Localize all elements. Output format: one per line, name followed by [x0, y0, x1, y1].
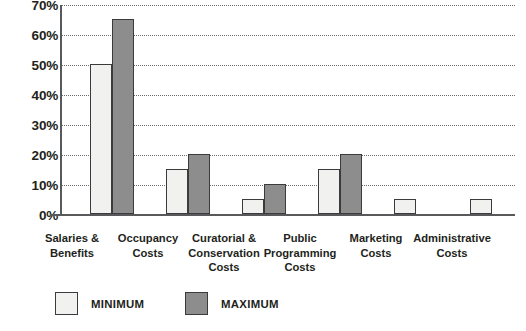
- maximum-swatch-icon: [185, 292, 208, 315]
- bar-minimum-curatorial-conservation-costs[interactable]: [242, 199, 264, 214]
- bar-maximum-public-programming-costs[interactable]: [340, 154, 362, 214]
- bar-maximum-occupancy-costs[interactable]: [188, 154, 210, 214]
- legend-entry-minimum[interactable]: MINIMUM: [55, 292, 144, 315]
- bar-chart: 70% 60% 50% 40% 30% 20% 10% 0%: [0, 0, 526, 331]
- y-tick-label: 40%: [8, 88, 58, 103]
- bar-minimum-occupancy-costs[interactable]: [166, 169, 188, 214]
- x-label-administrative-costs: Administrative Costs: [400, 231, 504, 260]
- bar-minimum-administrative-costs[interactable]: [470, 199, 492, 214]
- y-tick-label: 70%: [8, 0, 58, 13]
- y-tick-label: 30%: [8, 118, 58, 133]
- y-tick-label: 20%: [8, 148, 58, 163]
- legend-entry-maximum[interactable]: MAXIMUM: [185, 292, 279, 315]
- minimum-swatch-icon: [55, 292, 78, 315]
- y-tick-label: 10%: [8, 178, 58, 193]
- x-label-line: Costs: [248, 260, 352, 275]
- y-tick-label: 60%: [8, 28, 58, 43]
- legend-label-maximum: MAXIMUM: [221, 298, 279, 310]
- bar-minimum-public-programming-costs[interactable]: [318, 169, 340, 214]
- bar-maximum-curatorial-conservation-costs[interactable]: [264, 184, 286, 214]
- y-axis-line: [60, 5, 62, 215]
- bar-group-administrative-costs: [454, 5, 526, 214]
- x-label-line: Costs: [400, 246, 504, 261]
- x-label-line: Administrative: [400, 231, 504, 246]
- bar-group-occupancy-costs: [150, 5, 226, 214]
- plot-area: [60, 5, 515, 215]
- bar-minimum-marketing-costs[interactable]: [394, 199, 416, 214]
- chart-legend: MINIMUM MAXIMUM: [0, 292, 526, 331]
- bar-group-marketing-costs: [378, 5, 454, 214]
- y-tick-label: 50%: [8, 58, 58, 73]
- bar-maximum-salaries-benefits[interactable]: [112, 19, 134, 214]
- bar-group-public-programming-costs: [302, 5, 378, 214]
- bar-minimum-salaries-benefits[interactable]: [90, 64, 112, 214]
- bar-group-salaries-benefits: [74, 5, 150, 214]
- bar-group-curatorial-conservation-costs: [226, 5, 302, 214]
- legend-label-minimum: MINIMUM: [91, 298, 144, 310]
- x-axis-line: [50, 214, 515, 216]
